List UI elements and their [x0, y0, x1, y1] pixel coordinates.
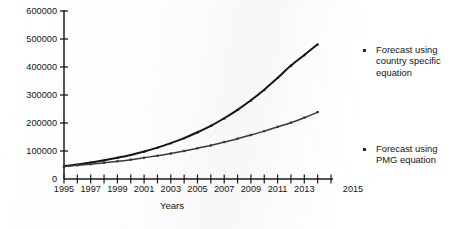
legend-label-pmg: Forecast using PMG equation — [376, 143, 456, 166]
legend-label-country-specific: Forecast using country specific equation — [376, 44, 456, 78]
data-point-marker-pmg — [236, 138, 238, 140]
data-point-marker-pmg — [290, 122, 292, 124]
data-point-marker-pmg — [170, 152, 172, 154]
x-axis-tick-label: 1995 — [54, 184, 74, 194]
data-series-group — [63, 43, 320, 168]
data-point-marker-pmg — [143, 157, 145, 159]
y-axis-tick-label: 100000 — [26, 146, 57, 156]
data-point-marker-pmg — [63, 165, 65, 167]
x-axis-tick-label: 2003 — [161, 184, 181, 194]
x-axis-tick-label: 2015 — [343, 184, 363, 194]
data-point-marker-pmg — [276, 126, 278, 128]
data-point-marker-pmg — [250, 134, 252, 136]
x-axis-title: Years — [160, 200, 184, 211]
y-axis-tick-label: 0 — [52, 174, 57, 184]
data-point-marker-pmg — [223, 141, 225, 143]
chart-plot-area: 0100000200000300000400000500000600000 19… — [0, 0, 458, 229]
data-point-marker-pmg — [156, 155, 158, 157]
data-point-marker-pmg — [303, 117, 305, 119]
x-axis-tick-label: 2013 — [294, 184, 314, 194]
data-point-marker-pmg — [183, 150, 185, 152]
chart-figure: 0100000200000300000400000500000600000 19… — [0, 0, 458, 229]
legend-marker-country-specific-icon — [363, 49, 366, 52]
data-point-marker-pmg — [317, 111, 319, 113]
series-line-country-specific — [64, 44, 318, 166]
data-point-marker-pmg — [263, 130, 265, 132]
x-axis-tick-label: 2011 — [268, 184, 288, 194]
y-axis-tick-label: 600000 — [26, 6, 57, 16]
x-axis: 1995199719992001200320052007200920112013… — [54, 175, 363, 195]
data-point-marker-pmg — [90, 163, 92, 165]
x-axis-tick-label: 2005 — [187, 184, 207, 194]
legend-marker-pmg-icon — [363, 148, 366, 151]
y-axis-tick-label: 300000 — [26, 90, 57, 100]
data-point-marker-pmg — [103, 162, 105, 164]
x-axis-tick-label: 2001 — [134, 184, 154, 194]
data-point-marker-pmg — [196, 147, 198, 149]
x-axis-tick-label: 1999 — [107, 184, 127, 194]
x-axis-tick-label: 2007 — [214, 184, 234, 194]
series-line-pmg — [64, 112, 318, 166]
data-point-marker-pmg — [116, 160, 118, 162]
data-point-marker-pmg — [130, 159, 132, 161]
y-axis-tick-label: 500000 — [26, 34, 57, 44]
y-axis: 0100000200000300000400000500000600000 — [26, 6, 68, 184]
data-point-marker-pmg — [76, 164, 78, 166]
y-axis-tick-label: 400000 — [26, 62, 57, 72]
x-axis-tick-label: 2009 — [241, 184, 261, 194]
x-axis-tick-label: 1997 — [80, 184, 100, 194]
data-point-marker-pmg — [210, 144, 212, 146]
y-axis-tick-label: 200000 — [26, 118, 57, 128]
